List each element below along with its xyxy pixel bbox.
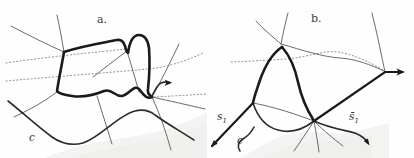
thin-curve bbox=[57, 15, 64, 52]
label-s1-bar: s̄1 bbox=[349, 110, 359, 125]
label-s1-sub: 1 bbox=[222, 117, 226, 125]
dotted-curve bbox=[231, 52, 383, 70]
thin-curve bbox=[97, 96, 112, 144]
thin-curve bbox=[11, 26, 64, 52]
thick-loop-bottom bbox=[57, 52, 152, 98]
thin-curve bbox=[372, 13, 385, 72]
dotted-curve bbox=[6, 53, 203, 81]
thin-curve bbox=[93, 51, 127, 77]
curve-c-label: c bbox=[29, 131, 35, 143]
curve-c-sag bbox=[253, 103, 314, 131]
thin-curve bbox=[256, 21, 281, 44]
panel-a: a. c bbox=[0, 0, 207, 158]
thick-arch-left-leg bbox=[253, 47, 282, 103]
arrow-s1bar-shaft bbox=[314, 72, 402, 121]
thin-curve bbox=[281, 13, 288, 44]
two-panel-curve-diagram: a. c b. s1 s̄1 c bbox=[0, 0, 414, 158]
panel-b-label: b. bbox=[311, 12, 322, 25]
label-s1: s1 bbox=[217, 110, 227, 125]
thin-curve bbox=[14, 92, 57, 117]
thin-curve bbox=[127, 51, 139, 92]
panel-b: b. s1 s̄1 c bbox=[207, 0, 414, 158]
thick-arch-right-leg bbox=[282, 47, 314, 121]
panel-a-label: a. bbox=[97, 13, 107, 26]
dotted-curve bbox=[154, 94, 207, 97]
label-s1bar-sub: 1 bbox=[354, 117, 358, 125]
curve-c-label: c bbox=[237, 134, 243, 146]
thin-curve bbox=[152, 97, 205, 109]
